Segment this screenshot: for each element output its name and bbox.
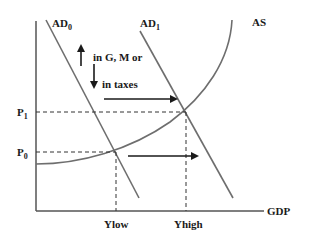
ylow-label: Ylow bbox=[104, 218, 129, 230]
ad1-label: AD1 bbox=[140, 17, 160, 32]
yhigh-label: Yhigh bbox=[174, 218, 203, 230]
as-label: AS bbox=[252, 16, 266, 28]
p0-label: P0 bbox=[17, 146, 28, 161]
p1-label: P1 bbox=[17, 106, 28, 121]
ad0-curve bbox=[46, 20, 139, 198]
ad-as-diagram: GDP AS AD0 AD1 P1 P0 Ylow Yhigh in G, M … bbox=[0, 0, 309, 246]
annotation-line-1: in G, M or bbox=[93, 51, 143, 63]
x-axis-label: GDP bbox=[267, 205, 291, 217]
ad0-label: AD0 bbox=[52, 17, 72, 32]
annotation-line-2: in taxes bbox=[102, 78, 138, 90]
